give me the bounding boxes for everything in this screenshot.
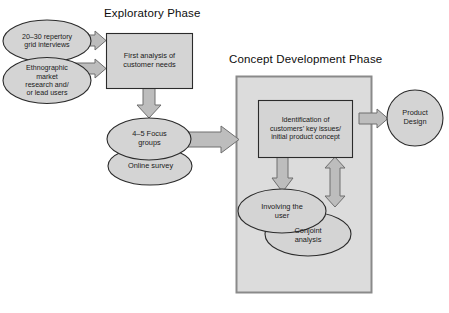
diagram-shapes-layer xyxy=(0,0,449,313)
title-exploratory-phase: Exploratory Phase xyxy=(104,7,201,19)
title-concept-development-phase: Concept Development Phase xyxy=(229,53,382,65)
node-repertory-grid-interviews xyxy=(3,20,91,62)
diagram-canvas: Exploratory Phase Concept Development Ph… xyxy=(0,0,449,313)
arrow-analysis-to-focus-groups xyxy=(137,88,161,118)
node-involving-the-user xyxy=(238,189,326,233)
node-product-design xyxy=(387,90,443,146)
node-identification-box xyxy=(259,101,353,158)
node-first-analysis-box xyxy=(107,34,193,89)
node-focus-groups xyxy=(107,118,191,160)
arrow-focus-to-concept xyxy=(185,126,239,153)
node-ethnographic-research xyxy=(3,58,91,104)
